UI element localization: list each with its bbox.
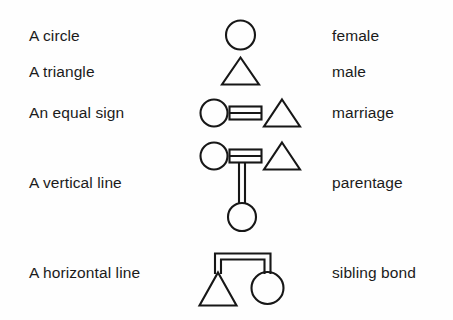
row-description-circle: A circle — [29, 28, 80, 44]
row-term-male: male — [332, 64, 366, 80]
sibling-bond-symbol — [200, 254, 284, 306]
sibling-bond-sister-circle — [252, 272, 284, 304]
legend-sheet: A circle female A triangle male An equal… — [0, 0, 453, 320]
marriage-male-triangle — [264, 100, 300, 127]
sibling-bond-bracket-outer — [215, 254, 271, 275]
parentage-mother-circle — [201, 143, 228, 170]
parentage-child-circle — [228, 203, 256, 231]
parentage-father-triangle — [264, 143, 300, 170]
marriage-female-circle — [201, 100, 228, 127]
sibling-bond-brother-triangle — [200, 273, 237, 306]
row-description-vertical-line: A vertical line — [29, 175, 122, 191]
row-term-sibling-bond: sibling bond — [332, 265, 416, 281]
row-description-horizontal-line: A horizontal line — [29, 265, 140, 281]
row-term-parentage: parentage — [332, 175, 403, 191]
triangle-symbol — [222, 58, 259, 85]
row-description-triangle: A triangle — [29, 64, 95, 80]
parentage-equal-bar — [230, 150, 262, 163]
parentage-symbol — [201, 143, 301, 232]
parentage-descent-line — [239, 163, 245, 205]
row-description-equal-sign: An equal sign — [29, 105, 124, 121]
marriage-symbol — [201, 100, 301, 127]
circle-symbol — [226, 21, 255, 50]
sibling-bond-bracket-inner — [221, 260, 265, 275]
row-term-marriage: marriage — [332, 105, 394, 121]
marriage-equal-bar — [230, 107, 262, 120]
row-term-female: female — [332, 28, 379, 44]
